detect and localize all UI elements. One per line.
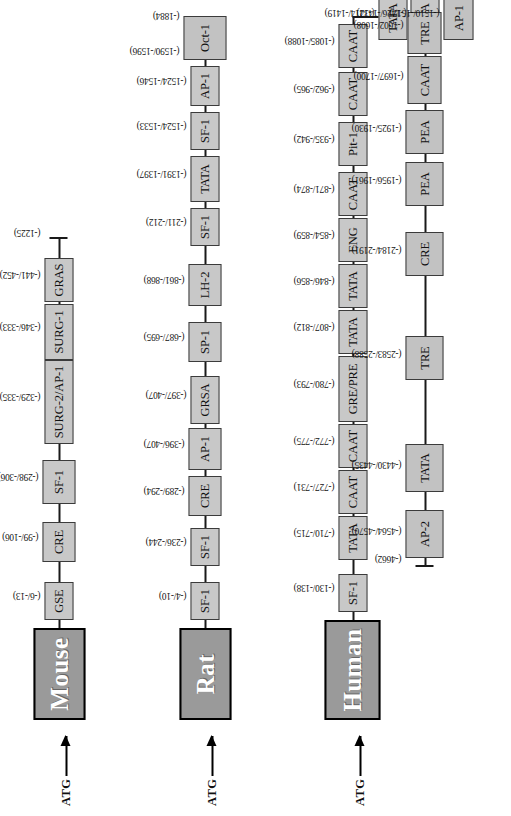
coord-rat-cre: (-289/-294) <box>143 486 184 496</box>
tf-site-rat-sf1-a[interactable]: SF-1 <box>190 582 219 620</box>
coord-mouse-gras: (-441/-452) <box>0 270 40 280</box>
tf-site-human-tre-1[interactable]: TRE <box>405 336 443 380</box>
tf-site-human-tata-3[interactable]: TATA <box>338 264 367 308</box>
lane-human: ATG Human SF-1 (-130/-138) TATA (-710/-7… <box>300 0 500 816</box>
tf-site-human-sf1[interactable]: SF-1 <box>338 574 367 612</box>
coord-human-end: (-4662) <box>375 554 401 564</box>
tf-site-mouse-surg1[interactable]: SURG-1 <box>44 304 73 360</box>
species-box-rat[interactable]: Rat <box>179 628 231 720</box>
coord-rat-end: (-1884) <box>153 11 179 21</box>
tf-site-rat-sf1-c[interactable]: SF-1 <box>190 208 219 246</box>
tf-site-human-tata-2[interactable]: TATA <box>338 310 367 354</box>
tf-site-human-tata-6[interactable]: TATA <box>405 444 443 492</box>
tf-site-rat-cre[interactable]: CRE <box>188 476 221 516</box>
tf-site-rat-lh2[interactable]: LH-2 <box>188 264 221 306</box>
coord-rat-sf1-a: (-4/-10) <box>159 591 186 601</box>
tf-site-human-gre-pre[interactable]: GRE/PRE <box>338 356 367 422</box>
tf-site-rat-sf1-d[interactable]: SF-1 <box>190 112 219 150</box>
coord-mouse-surg2-ap1: (-329/-335) <box>0 392 40 402</box>
coord-human-pea-2: (-1925/-1930) <box>351 123 401 133</box>
coord-mouse-surg1: (-346/-333) <box>0 322 40 332</box>
atg-marker-mouse: ATG <box>58 736 73 806</box>
atg-marker-human: ATG <box>352 736 367 806</box>
tf-site-human-pea-2[interactable]: PEA <box>405 110 443 154</box>
coord-human-caat-3: (-871/-874) <box>293 184 334 194</box>
tf-site-rat-ap1-b[interactable]: AP-1 <box>190 66 219 106</box>
lane-rat: ATG Rat SF-1 (-4/-10) SF-1 (-236/-244) C… <box>152 0 284 816</box>
atg-label-rat: ATG <box>204 779 219 806</box>
tf-site-mouse-cre[interactable]: CRE <box>42 522 75 562</box>
coord-rat-tata: (-1391/-1397) <box>136 169 186 179</box>
coord-human-cre: (-2184/-2191) <box>351 245 401 255</box>
coord-human-sf1: (-130/-138) <box>293 583 334 593</box>
coord-human-pea-1: (-1956/-1961) <box>351 175 401 185</box>
coord-human-tata-2: (-807/-812) <box>293 322 334 332</box>
coord-human-caat-4: (-962/-965) <box>293 84 334 94</box>
coord-human-caat-5: (-1085/-1088) <box>284 36 334 46</box>
coord-human-pit1: (-935/-942) <box>293 134 334 144</box>
atg-arrow-icon-rat <box>211 736 213 776</box>
coord-human-tata-6: (-4430/-4435) <box>351 460 401 470</box>
tf-site-rat-grsa[interactable]: GRSA <box>190 376 219 424</box>
coord-rat-oct1: (-1590/-1596) <box>129 46 179 56</box>
atg-label-mouse: ATG <box>58 779 73 806</box>
atg-marker-rat: ATG <box>204 736 219 806</box>
atg-arrow-icon-mouse <box>65 736 67 776</box>
tf-site-mouse-surg2-ap1[interactable]: SURG-2/AP-1 <box>44 360 73 444</box>
coord-human-ap1: (-1510/-1517) <box>389 8 439 18</box>
promoter-figure: ATG Mouse GSE (-6/-13) CRE (-99/-106) SF… <box>0 0 511 816</box>
lane-mouse: ATG Mouse GSE (-6/-13) CRE (-99/-106) SF… <box>6 0 138 816</box>
coord-rat-grsa: (-397/-407) <box>145 390 186 400</box>
coord-rat-sf1-c: (-211/-212) <box>146 217 186 227</box>
coord-human-tre-1: (-2583/-2588) <box>351 349 401 359</box>
coord-rat-lh2: (-861/-868) <box>143 275 184 285</box>
tf-site-human-tre-2[interactable]: TRE <box>407 12 441 54</box>
coord-human-eng: (-854/-859) <box>293 230 334 240</box>
tf-site-human-caat-5[interactable]: CAAT <box>338 24 367 68</box>
tf-site-rat-sf1-b[interactable]: SF-1 <box>190 528 219 566</box>
tf-site-mouse-gras[interactable]: GRAS <box>44 258 73 302</box>
coord-rat-sf1-d: (-1524/-1533) <box>136 121 186 131</box>
tf-site-rat-oct1[interactable]: Oct-1 <box>183 16 226 60</box>
tf-site-rat-sp1[interactable]: SP-1 <box>188 322 221 362</box>
coord-human-tata-1: (-710/-715) <box>293 528 334 538</box>
coord-human-tre-2: (-1602/-1608) <box>353 20 403 30</box>
endcap-mouse <box>49 237 67 239</box>
coord-human-gre-pre: (-780/-793) <box>293 379 334 389</box>
atg-label-human: ATG <box>352 779 367 806</box>
coord-human-caat-6: (-1697/-1700) <box>353 71 403 81</box>
coord-rat-ap1-b: (-1524/-1546) <box>136 76 186 86</box>
species-box-mouse[interactable]: Mouse <box>33 628 85 720</box>
tf-site-mouse-sf1[interactable]: SF-1 <box>42 460 75 504</box>
coord-mouse-sf1: (-298/-306) <box>0 472 38 482</box>
coord-human-tata-3: (-846/-856) <box>293 276 334 286</box>
tf-site-rat-ap1-a[interactable]: AP-1 <box>188 428 221 470</box>
tf-site-human-eng[interactable]: ENG <box>338 218 367 262</box>
coord-human-ap2: (-4564/-4570) <box>351 526 401 536</box>
tf-site-rat-tata[interactable]: TATA <box>190 156 219 202</box>
coord-human-caat-1: (-727/-731) <box>293 482 334 492</box>
tf-site-mouse-gse[interactable]: GSE <box>44 582 73 620</box>
coord-rat-sf1-b: (-236/-244) <box>145 537 186 547</box>
species-box-human[interactable]: Human <box>324 620 380 720</box>
coord-human-caat-2: (-772/-775) <box>293 436 334 446</box>
tf-site-human-ap1[interactable]: AP-1 <box>443 0 473 40</box>
tf-site-human-pea-1[interactable]: PEA <box>405 162 443 206</box>
endcap-human <box>415 565 433 567</box>
atg-arrow-icon-human <box>359 736 361 776</box>
coord-mouse-cre: (-99/-106) <box>2 532 38 542</box>
tf-site-human-cre[interactable]: CRE <box>405 232 443 276</box>
coord-rat-sp1: (-687/-695) <box>143 332 184 342</box>
tf-site-human-ap2[interactable]: AP-2 <box>405 510 443 558</box>
coord-rat-ap1-a: (-396/-407) <box>143 439 184 449</box>
coord-mouse-gse: (-6/-13) <box>13 591 40 601</box>
tf-site-human-caat-1[interactable]: CAAT <box>338 470 367 514</box>
coord-mouse-end: (-1225) <box>14 228 40 238</box>
tf-site-human-tata-1[interactable]: TATA <box>338 516 367 560</box>
tf-site-human-caat-6[interactable]: CAAT <box>407 56 441 104</box>
